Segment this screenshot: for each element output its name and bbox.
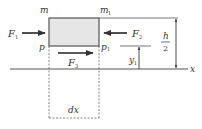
force-f3-sub: 3	[75, 63, 78, 69]
label-m: m	[40, 5, 49, 15]
x-axis-label: x	[190, 64, 195, 74]
label-m1-sub: 1	[108, 10, 111, 16]
h-denominator: 2	[163, 44, 168, 53]
label-p: p	[39, 42, 45, 52]
force-f2-sub: 2	[139, 34, 142, 40]
fluid-element	[49, 18, 99, 46]
force-f1-sub: 1	[15, 34, 18, 40]
y1-sub: 1	[134, 60, 137, 66]
label-p1-sub: 1	[107, 46, 110, 52]
h-numerator: h	[163, 31, 169, 41]
fluid-element-diagram: x dx m m 1 p p 1 F 1 F 2 F 3 y 1 h 2	[0, 0, 202, 129]
dx-label: dx	[68, 105, 79, 115]
